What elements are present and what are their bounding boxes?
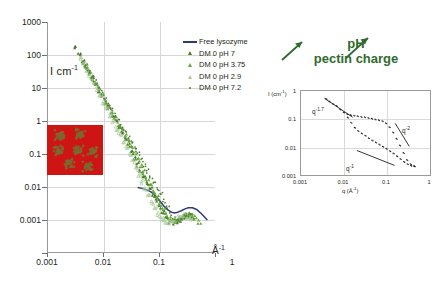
power-law-label-q2: q-2 [402,126,410,134]
inset-chart: I (cm-1) 1 0.1 0.01 0.001 0.001 0.01 0.1… [268,84,442,196]
inset-x-tick-label: 0.1 [382,179,390,185]
inset-point [355,127,356,128]
inset-point [389,127,390,128]
inset-point [390,151,391,152]
tem-particle [53,144,65,156]
inset-x-tick-label: 0.001 [293,179,307,185]
y-tickmark [42,88,47,89]
inset-point [365,135,366,136]
annotation-line-1: pH [286,36,426,51]
inset-x-axis-title: q (Å-1) [342,186,358,194]
legend: Free lysozyme DM 0 pH 7 DM 0 pH 3.75 DM … [181,36,248,94]
inset-point [365,117,366,118]
legend-label: DM 0 pH 3.75 [199,59,245,71]
tem-particle [64,158,76,170]
inset-x-tick-label: 1 [427,179,430,185]
y-axis-tick-label: 1 [0,116,41,126]
tem-particle [75,128,87,140]
inset-point [400,145,401,146]
y-axis-title-text: I cm [50,65,72,77]
inset-point [376,142,377,143]
tem-particles [47,125,103,175]
y-axis-title-exponent: -1 [72,64,79,71]
guide-q1 [357,151,395,166]
inset-plot-area [300,90,431,176]
inset-point [411,165,412,166]
inset-point [397,156,398,157]
y-axis-tick-label: 100 [0,50,41,60]
inset-point [386,123,387,124]
legend-label: DM 0 pH 7.2 [199,82,241,94]
legend-dot-marker-icon [181,87,199,90]
x-axis-title-exponent: -1 [219,244,225,251]
inset-point [400,159,401,160]
inset-point [379,120,380,121]
inset-x-axis-title-text: q (Å [342,188,353,194]
tem-particle [54,129,66,141]
inset-y-tick-label: 1 [270,88,296,94]
inset-point [379,144,380,145]
inset-point [358,131,359,132]
y-tickmark [42,55,47,56]
inset-point [368,118,369,119]
inset-point [358,116,359,117]
inset-point [348,117,349,118]
inset-point [375,119,376,120]
legend-label: DM 0 pH 2.9 [199,71,241,83]
legend-triangle-marker-icon [181,63,199,67]
inset-point [393,132,394,133]
inset-point [414,166,415,167]
y-axis-tick-label: 0.001 [0,215,41,225]
legend-triangle-open-marker-icon [181,75,199,79]
inset-point [354,115,355,116]
tem-particle [81,160,93,172]
y-axis-tick-label: 10 [0,83,41,93]
legend-item-dm0-ph29: DM 0 pH 2.9 [181,71,248,83]
series-line-free-lysozyme [138,188,208,220]
inset-point [403,153,404,154]
legend-label: Free lysozyme [199,36,248,48]
tem-particle [86,146,98,158]
inset-point [361,116,362,117]
inset-point [386,148,387,149]
y-axis-tick-label: 1000 [0,17,41,27]
inset-x-tick-label: 0.01 [338,179,349,185]
y-tickmark [42,121,47,122]
power-law-label-q17: q-1.7 [312,107,324,115]
figure-root: 1000 100 10 1 0.1 0.01 0.001 0.001 0.01 … [0,0,442,288]
inset-y-tick-label: 0.1 [270,116,296,122]
x-axis-tick-label: 1 [230,257,235,267]
y-tickmark [42,187,47,188]
inset-point [393,153,394,154]
inset-point [383,146,384,147]
legend-line-marker-icon [181,41,199,43]
tem-micrograph-inset [47,125,103,175]
y-tickmark [42,220,47,221]
inset-point [382,121,383,122]
y-axis-tick-label: 0.1 [0,149,41,159]
inset-point [369,138,370,139]
y-tickmark [42,22,47,23]
inset-point [351,122,352,123]
power-law-label-q1: q-1 [346,164,354,172]
x-axis-tick-label: 0.001 [36,257,57,267]
inset-point [362,133,363,134]
guide-q17 [324,98,352,117]
legend-triangle-marker-icon [181,51,199,55]
annotation-text: pH pectin charge [286,36,426,66]
y-axis-tick-label: 0.01 [0,182,41,192]
x-axis-title-text: Å [212,245,219,256]
tem-particle [73,145,85,157]
legend-item-dm0-ph375: DM 0 pH 3.75 [181,59,248,71]
inset-point [396,138,397,139]
legend-item-free-lysozyme: Free lysozyme [181,36,248,48]
inset-data-layer [301,91,430,175]
inset-point [372,118,373,119]
legend-item-dm0-ph7: DM 0 pH 7 [181,48,248,60]
annotation-line-2: pectin charge [286,51,426,66]
inset-point [404,162,405,163]
y-axis-title: I cm-1 [50,64,78,77]
legend-label: DM 0 pH 7 [199,48,235,60]
inset-point [372,140,373,141]
inset-y-tick-label: 0.01 [270,145,296,151]
